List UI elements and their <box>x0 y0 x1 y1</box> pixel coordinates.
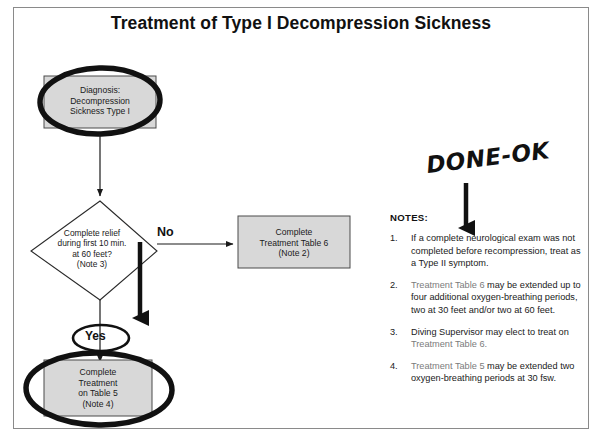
decision-line-3: at 60 feet? <box>32 249 152 259</box>
notes-heading: NOTES: <box>390 212 586 223</box>
note-2-table-ref: Treatment Table 6 <box>411 280 485 290</box>
note-text-2: Treatment Table 6 may be extended up to … <box>411 279 586 317</box>
note-number-4: 4. <box>390 360 411 385</box>
note-number-2: 2. <box>390 279 411 317</box>
note-number-3: 3. <box>390 326 411 351</box>
note-text-3: Diving Supervisor may elect to treat on … <box>411 326 586 351</box>
note-item-4: 4. Treatment Table 5 may be extended two… <box>390 360 586 385</box>
decision-line-2: during first 10 min. <box>32 238 152 248</box>
table5-line-1: Complete <box>46 367 150 378</box>
notes-panel: NOTES: 1. If a complete neurological exa… <box>390 212 586 394</box>
diagnosis-line-3: Sickness Type I <box>48 106 152 117</box>
table5-line-3: on Table 5 <box>46 388 150 399</box>
decision-line-1: Complete relief <box>32 228 152 238</box>
note-3-table-ref: Treatment Table 6. <box>411 339 487 349</box>
note-item-1: 1. If a complete neurological exam was n… <box>390 232 586 270</box>
note-text-4: Treatment Table 5 may be extended two ox… <box>411 360 586 385</box>
note-text-1: If a complete neurological exam was not … <box>411 232 586 270</box>
node-decision-label: Complete relief during first 10 min. at … <box>32 228 152 270</box>
table6-line-1: Complete <box>242 227 346 238</box>
table5-line-2: Treatment <box>46 378 150 389</box>
node-table6-label: Complete Treatment Table 6 (Note 2) <box>242 227 346 259</box>
node-table5-label: Complete Treatment on Table 5 (Note 4) <box>46 367 150 409</box>
table5-line-4: (Note 4) <box>46 399 150 410</box>
note-item-3: 3. Diving Supervisor may elect to treat … <box>390 326 586 351</box>
table6-line-2: Treatment Table 6 <box>242 238 346 249</box>
note-number-1: 1. <box>390 232 411 270</box>
diagnosis-line-1: Diagnosis: <box>48 85 152 96</box>
note-4-table-ref: Treatment Table 5 <box>411 361 485 371</box>
note-item-2: 2. Treatment Table 6 may be extended up … <box>390 279 586 317</box>
diagnosis-line-2: Decompression <box>48 96 152 107</box>
edge-label-no: No <box>157 225 174 239</box>
note-3-body: Diving Supervisor may elect to treat on <box>411 327 569 337</box>
edge-label-yes: Yes <box>85 329 106 343</box>
table6-line-3: (Note 2) <box>242 248 346 259</box>
node-diagnosis-label: Diagnosis: Decompression Sickness Type I <box>48 85 152 117</box>
decision-line-4: (Note 3) <box>32 259 152 269</box>
screenshot-page: Treatment of Type I Decompression Sickne… <box>0 0 603 447</box>
